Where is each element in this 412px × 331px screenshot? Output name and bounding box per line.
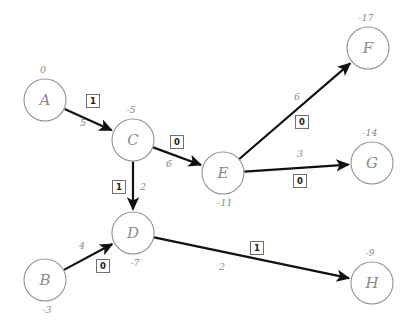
edge-box-c-d[interactable]: 1 [113, 181, 126, 194]
node-label-d: D [126, 224, 139, 242]
node-e[interactable]: E-11 [202, 152, 244, 208]
node-label-a: A [38, 91, 51, 109]
edge-box-b-d[interactable]: 0 [97, 260, 110, 273]
node-value-b: -3 [42, 304, 51, 315]
node-label-b: B [38, 271, 50, 289]
edge-box-a-c[interactable]: 1 [87, 95, 100, 108]
edge-box-value-e-g: 0 [297, 176, 303, 186]
edge-weight-c-d: 2 [139, 181, 146, 192]
node-label-h: H [364, 274, 379, 292]
edge-weight-e-f: 6 [294, 91, 300, 102]
node-label-e: E [217, 164, 229, 182]
node-label-g: G [366, 154, 378, 172]
node-value-d: -7 [130, 257, 140, 268]
node-value-e: -11 [217, 197, 232, 208]
graph-diagram: A0B-3C-5D-7E-11F-17G-14H-9 5160214060302… [0, 0, 412, 331]
edge-box-value-e-f: 0 [299, 117, 305, 127]
edge-box-value-a-c: 1 [90, 96, 96, 106]
node-d[interactable]: D-7 [112, 212, 154, 268]
node-c[interactable]: C-5 [112, 104, 154, 161]
node-h[interactable]: H-9 [351, 247, 393, 304]
node-value-g: -14 [362, 127, 377, 138]
edge-weight-e-g: 3 [297, 148, 303, 159]
edge-arrow [239, 63, 350, 159]
node-label-f: F [362, 39, 374, 57]
edge-box-value-c-e: 0 [174, 137, 180, 147]
edge-arrow [153, 147, 201, 165]
node-g[interactable]: G-14 [351, 127, 393, 184]
node-value-a: 0 [40, 64, 46, 75]
edge-box-value-d-h: 1 [254, 243, 260, 253]
edge-box-e-g[interactable]: 0 [294, 175, 307, 188]
edge-box-e-f[interactable]: 0 [296, 116, 309, 129]
edge-weight-c-e: 6 [166, 158, 172, 169]
edge-e-f [239, 63, 350, 159]
node-a[interactable]: A0 [24, 64, 66, 121]
node-label-c: C [127, 131, 139, 149]
edge-box-value-b-d: 0 [100, 261, 106, 271]
node-f[interactable]: F-17 [347, 12, 389, 69]
node-value-h: -9 [365, 247, 374, 258]
edge-arrow [244, 165, 348, 172]
nodes-layer: A0B-3C-5D-7E-11F-17G-14H-9 [24, 12, 393, 315]
cut-off-footer-text [0, 321, 412, 331]
edge-e-g [244, 165, 348, 172]
edge-weight-d-h: 2 [218, 261, 225, 272]
node-value-f: -17 [358, 12, 374, 23]
edge-a-c [65, 109, 112, 130]
edge-box-c-e[interactable]: 0 [171, 136, 184, 149]
edge-c-e [153, 147, 201, 165]
edge-box-value-c-d: 1 [116, 182, 122, 192]
edge-weight-a-c: 5 [80, 117, 86, 128]
edge-arrow [65, 109, 112, 130]
edge-weight-b-d: 4 [78, 240, 85, 251]
edge-box-d-h[interactable]: 1 [251, 242, 264, 255]
node-value-c: -5 [126, 104, 135, 115]
node-b[interactable]: B-3 [24, 259, 66, 315]
